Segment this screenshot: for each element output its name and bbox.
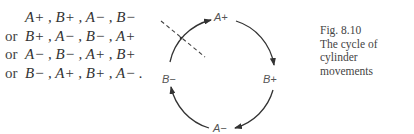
node-a-plus: A+ — [213, 11, 228, 23]
node-b-minus: B− — [162, 73, 176, 85]
cut-point-dot — [180, 37, 183, 40]
cycle-arrow-top-to-right — [236, 21, 274, 65]
cycle-arrow-bottom-to-left — [171, 87, 209, 128]
cycle-arrow-right-to-bottom — [235, 90, 273, 128]
node-b-plus: B+ — [263, 73, 277, 85]
cycle-arrow-left-to-top — [170, 20, 211, 62]
caption-line-1: The cycle of cylinder — [320, 38, 414, 65]
node-a-minus: A− — [212, 122, 227, 134]
figure-caption: Fig. 8.10 The cycle of cylinder movement… — [320, 24, 414, 78]
dashed-cut-line — [161, 21, 205, 57]
figure-number: Fig. 8.10 — [320, 24, 414, 38]
caption-line-2: movements — [320, 65, 414, 79]
